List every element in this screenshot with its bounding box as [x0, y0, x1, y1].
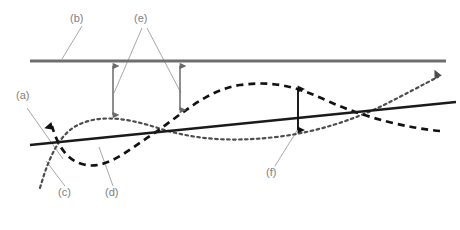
- callout-label-f: (f): [266, 166, 276, 178]
- leader-line-a: [27, 108, 63, 159]
- figure-canvas: (a) (b) (c) (d) (e) (f): [0, 0, 460, 230]
- leader-lines: [27, 26, 298, 186]
- vertical-gap-arrows: [113, 66, 180, 115]
- callout-label-e: (e): [134, 12, 147, 24]
- callout-label-d: (d): [105, 186, 118, 198]
- dashed-curve: [52, 84, 440, 166]
- leader-line-d: [99, 147, 113, 186]
- callout-label-c: (c): [58, 186, 71, 198]
- dotted-curve: [40, 77, 438, 188]
- leader-line-b: [62, 26, 82, 59]
- callout-label-b: (b): [70, 12, 83, 24]
- callout-label-a: (a): [16, 89, 29, 101]
